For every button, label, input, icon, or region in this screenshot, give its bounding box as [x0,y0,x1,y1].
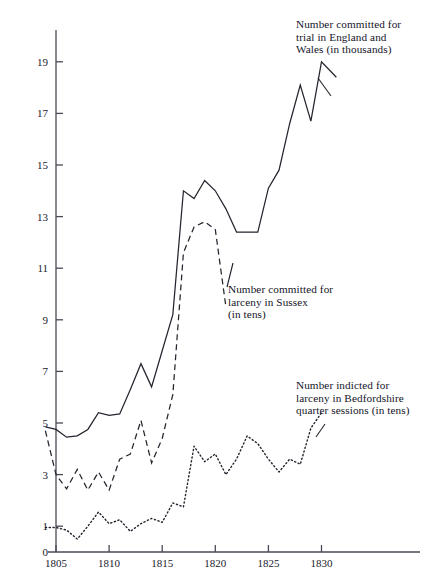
x-tick-label-1815: 1815 [151,557,174,569]
y-axis-ticks: 1917151311975310 [37,56,63,558]
series-england-wales-line [45,62,336,437]
chart-plot-area: 1917151311975310 18051810181518201825183… [0,0,439,588]
y-tick-label-7: 7 [43,365,49,377]
y-tick-label-9: 9 [43,314,49,326]
chart-root: 1917151311975310 18051810181518201825183… [0,0,439,588]
y-tick-label-15: 15 [37,159,49,171]
annotation-bedfordshire: Number indicted for larceny in Bedfordsh… [296,379,439,417]
annotation-sussex: Number committed for larceny in Sussex (… [228,283,348,321]
x-tick-label-1810: 1810 [98,557,121,569]
series-sussex-larceny-line [45,222,226,490]
series-bedfordshire-larceny-line [45,413,321,539]
x-tick-label-1830: 1830 [311,557,334,569]
y-tick-label-3: 3 [43,469,49,481]
y-tick-label-19: 19 [37,56,49,68]
y-tick-label-17: 17 [37,107,49,119]
leader-line-england [318,78,331,96]
x-axis-ticks: 180518101815182018251830 [45,545,333,569]
leader-line-bedford [316,424,325,437]
x-tick-label-1805: 1805 [45,557,68,569]
x-tick-label-1820: 1820 [204,557,227,569]
y-tick-label-11: 11 [37,262,48,274]
annotation-england-wales: Number committed for trial in England an… [296,18,436,56]
y-tick-label-13: 13 [37,211,49,223]
y-tick-label-1: 1 [43,520,49,532]
x-tick-label-1825: 1825 [257,557,280,569]
